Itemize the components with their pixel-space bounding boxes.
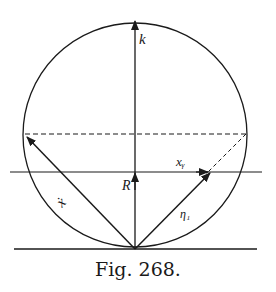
right-vector-arrow: [135, 173, 210, 249]
label-r: R: [121, 178, 131, 193]
label-x: xᵧ: [175, 154, 185, 169]
label-top: k: [139, 31, 146, 47]
left-vector-arrow: [27, 137, 135, 249]
figure-caption: Fig. 268.: [0, 258, 276, 280]
label-left-vector: ẋ: [52, 194, 69, 211]
dashed-diagonal: [206, 134, 246, 174]
figure-diagram: k R xᵧ η₁ ẋ: [0, 0, 276, 292]
label-eta: η₁: [180, 207, 190, 221]
